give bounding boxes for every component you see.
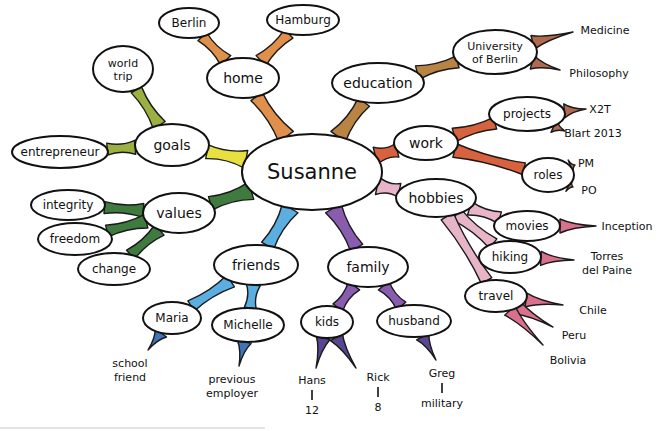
leaf-spike-11 <box>316 336 330 368</box>
node-husband[interactable]: husband <box>377 305 451 337</box>
leaf-item: Inception <box>601 220 652 233</box>
node-home-label: home <box>223 70 263 86</box>
branch-center-to-friends <box>262 203 298 249</box>
node-friends[interactable]: friends <box>214 245 298 285</box>
center-node-susanne[interactable]: Susanne <box>242 134 382 210</box>
bottom-divider <box>0 427 265 429</box>
node-family[interactable]: family <box>328 247 408 287</box>
leaf-label: Medicine <box>580 24 629 37</box>
node-travel-label: travel <box>479 289 514 303</box>
leaf-sub-label: 8 <box>375 401 382 414</box>
leaf-label: Greg <box>429 367 456 380</box>
node-michelle-label: Michelle <box>223 318 272 332</box>
node-hiking[interactable]: hiking <box>479 241 541 273</box>
branch-goals-to-worldtrip <box>131 86 165 129</box>
node-movies-label: movies <box>505 219 548 233</box>
leaf-label: Torresdel Paine <box>582 250 632 277</box>
leaf-spike-7 <box>541 251 574 265</box>
node-university-label: Universityof Berlin <box>467 39 523 65</box>
node-education-label: education <box>343 75 412 91</box>
node-projects[interactable]: projects <box>489 97 565 131</box>
leaf-label: X2T <box>589 103 611 116</box>
node-entrepreneur[interactable]: entrepreneur <box>12 136 108 168</box>
leaf-item: X2T <box>589 103 611 116</box>
branch-work-to-projects <box>452 117 496 141</box>
node-kids-label: kids <box>315 315 339 329</box>
node-change[interactable]: change <box>78 253 150 285</box>
node-integrity-label: integrity <box>43 198 94 212</box>
leaf-item: PO <box>581 184 597 197</box>
node-home[interactable]: home <box>207 58 279 98</box>
leaf-sub-label: military <box>421 397 463 410</box>
node-hamburg[interactable]: Hamburg <box>267 5 339 35</box>
node-work[interactable]: work <box>394 126 458 160</box>
leaf-spike-15 <box>237 340 251 366</box>
node-values-label: values <box>156 205 202 221</box>
leaf-item: Hans12 <box>298 374 326 417</box>
node-integrity[interactable]: integrity <box>31 190 105 220</box>
leaf-label: previousemployer <box>206 373 259 400</box>
node-roles-label: roles <box>534 168 563 182</box>
node-movies[interactable]: movies <box>494 211 560 241</box>
node-goals[interactable]: goals <box>135 124 209 166</box>
node-projects-label: projects <box>503 107 551 121</box>
leaf-item: previousemployer <box>206 373 259 400</box>
branch-goals-to-entrepreneur <box>107 140 136 155</box>
leaf-item: Chile <box>579 304 607 317</box>
leaf-sub-label: 12 <box>305 404 319 417</box>
leaf-item: Blart 2013 <box>564 127 622 140</box>
node-travel[interactable]: travel <box>465 280 527 312</box>
node-friends-label: friends <box>232 257 280 273</box>
node-berlin-label: Berlin <box>172 16 207 30</box>
node-hamburg-label: Hamburg <box>275 13 331 27</box>
branch-values-to-integrity <box>104 202 144 218</box>
leaf-spike-6 <box>560 219 596 233</box>
node-entrepreneur-label: entrepreneur <box>21 145 100 159</box>
leaf-item: Rick8 <box>366 371 390 414</box>
node-university[interactable]: Universityof Berlin <box>453 30 537 74</box>
node-worldtrip[interactable]: worldtrip <box>93 46 153 92</box>
node-maria-label: Maria <box>155 311 188 325</box>
node-kids[interactable]: kids <box>301 306 353 338</box>
node-michelle[interactable]: Michelle <box>212 308 284 342</box>
leaf-spike-8 <box>525 293 563 307</box>
leaf-label: Hans <box>298 374 326 387</box>
node-family-label: family <box>346 259 389 275</box>
leaf-label: Peru <box>562 329 587 342</box>
leaf-label: Rick <box>366 371 390 384</box>
leaf-label: Philosophy <box>569 67 629 80</box>
mind-map-canvas: SusannehomeBerlinHamburgeducationUnivers… <box>0 0 662 431</box>
branch-values-to-freedom <box>106 214 148 236</box>
node-hobbies-label: hobbies <box>408 190 463 206</box>
node-freedom-label: freedom <box>50 232 100 246</box>
node-roles[interactable]: roles <box>522 158 574 192</box>
leaf-spike-0 <box>531 32 573 49</box>
node-work-label: work <box>409 135 444 151</box>
leaf-label: schoolfriend <box>112 357 147 384</box>
node-maria[interactable]: Maria <box>143 302 201 334</box>
node-education[interactable]: education <box>332 63 424 103</box>
leaf-label: PO <box>581 184 597 197</box>
node-change-label: change <box>92 262 136 276</box>
leaf-item: Gregmilitary <box>421 367 463 410</box>
leaf-label: Inception <box>601 220 652 233</box>
leaf-item: Torresdel Paine <box>582 250 632 277</box>
leaf-item: Bolivia <box>550 354 587 367</box>
node-hobbies[interactable]: hobbies <box>396 179 476 217</box>
branch-center-to-home <box>251 92 293 142</box>
node-berlin[interactable]: Berlin <box>159 8 219 38</box>
node-layer: SusannehomeBerlinHamburgeducationUnivers… <box>12 5 574 342</box>
leaf-label: Bolivia <box>550 354 587 367</box>
leaf-label: Chile <box>579 304 607 317</box>
leaf-item: Philosophy <box>569 67 629 80</box>
leaf-spike-2 <box>564 104 586 118</box>
branch-work-to-roles <box>453 144 525 175</box>
node-freedom[interactable]: freedom <box>38 223 112 255</box>
leaf-item: schoolfriend <box>112 357 147 384</box>
leaf-label: Blart 2013 <box>564 127 622 140</box>
node-hiking-label: hiking <box>492 250 528 264</box>
branch-center-to-goals <box>206 145 248 168</box>
leaf-item: PM <box>578 157 594 170</box>
branch-center-to-family <box>326 204 363 252</box>
node-values[interactable]: values <box>143 193 215 233</box>
